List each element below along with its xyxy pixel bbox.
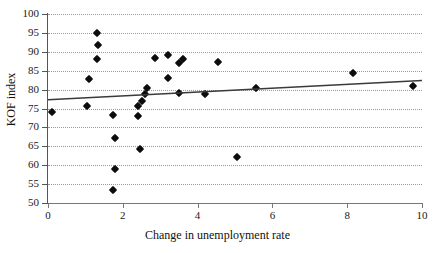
y-tick-75 [42,109,48,110]
data-point [134,111,142,119]
x-tick-label: 8 [335,210,359,221]
y-tick-label: 50 [13,197,39,208]
y-tick-60 [42,165,48,166]
y-tick-100 [42,14,48,15]
x-tick-label: 2 [111,210,135,221]
data-point [94,40,102,48]
x-tick-10 [422,203,423,208]
x-tick-label: 6 [260,210,284,221]
x-tick-2 [123,203,124,208]
y-tick-85 [42,71,48,72]
y-tick-70 [42,127,48,128]
y-tick-55 [42,184,48,185]
data-point [85,75,93,83]
data-point [109,111,117,119]
x-axis-title: Change in unemployment rate [0,228,435,243]
x-tick-4 [198,203,199,208]
gridline-y-80 [48,90,422,91]
x-tick-6 [272,203,273,208]
y-tick-65 [42,146,48,147]
gridline-y-100 [48,14,422,15]
gridline-y-65 [48,146,422,147]
x-tick-label: 10 [410,210,434,221]
x-tick-label: 4 [186,210,210,221]
data-point [251,84,259,92]
data-point [233,152,241,160]
y-tick-90 [42,52,48,53]
x-axis-line [47,203,422,204]
y-tick-label: 60 [13,159,39,170]
y-axis-title: KOF index [4,55,19,145]
x-tick-0 [48,203,49,208]
y-tick-80 [42,90,48,91]
y-tick-95 [42,33,48,34]
data-point [109,186,117,194]
x-tick-label: 0 [36,210,60,221]
data-point [92,55,100,63]
data-point [150,54,158,62]
data-point [92,29,100,37]
y-tick-label: 95 [13,27,39,38]
x-tick-8 [347,203,348,208]
data-point [214,57,222,65]
y-tick-label: 100 [13,8,39,19]
gridline-y-55 [48,184,422,185]
gridline-y-90 [48,52,422,53]
gridline-y-95 [48,33,422,34]
plot-area [48,14,422,203]
scatter-chart: 50556065707580859095100 0246810 Change i… [0,0,435,253]
data-point [111,133,119,141]
gridline-y-60 [48,165,422,166]
gridline-y-85 [48,71,422,72]
y-tick-label: 55 [13,178,39,189]
gridline-y-75 [48,109,422,110]
data-point [201,90,209,98]
data-point [163,73,171,81]
gridline-y-70 [48,127,422,128]
